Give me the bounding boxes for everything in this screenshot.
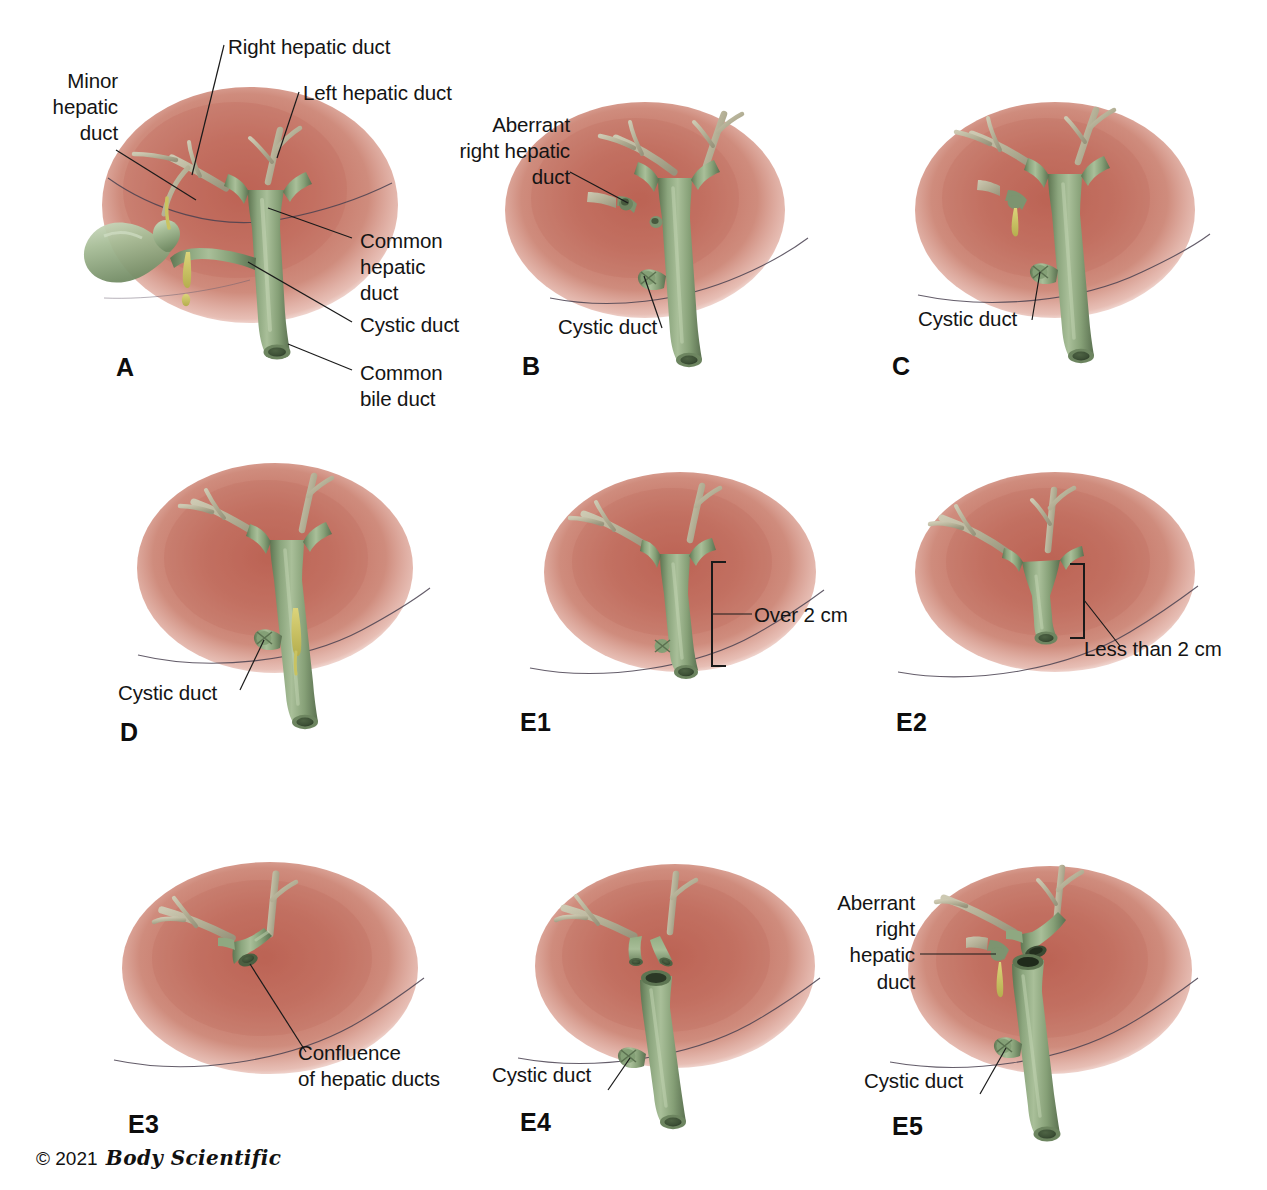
- panel-D: Cystic duct D: [80, 440, 480, 750]
- copyright-notice: © 2021 Body Scientific: [36, 1146, 281, 1170]
- panel-E2: Less than 2 cm E2: [880, 450, 1267, 750]
- panel-E3: Confluence of hepatic ducts E3: [80, 840, 500, 1160]
- leader-common-bile-duct: [288, 344, 352, 370]
- panel-letter-A: A: [116, 353, 134, 382]
- label-cystic-duct: Cystic duct: [918, 306, 1048, 332]
- panel-letter-C: C: [892, 352, 910, 381]
- label-over-2-cm: Over 2 cm: [754, 602, 884, 628]
- cystic-duct-clip: [655, 639, 671, 653]
- duct-clip-secondary: [650, 216, 663, 228]
- panel-C: Cystic duct C: [850, 70, 1267, 410]
- label-cystic-duct: Cystic duct: [558, 314, 688, 340]
- panel-E4: Cystic duct E4: [490, 840, 890, 1150]
- label-minor-hepatic-duct: Minor hepatic duct: [18, 68, 118, 147]
- panel-A-illustration: [0, 0, 470, 420]
- panel-E1-illustration: [490, 450, 890, 750]
- label-cystic-duct: Cystic duct: [492, 1062, 622, 1088]
- label-aberrant-right-hepatic-duct: Aberrant right hepatic duct: [440, 112, 570, 191]
- biliary-classification-figure: Minor hepatic duct Right hepatic duct Le…: [0, 0, 1267, 1190]
- panel-letter-E3: E3: [128, 1110, 159, 1139]
- label-cystic-duct: Cystic duct: [864, 1068, 994, 1094]
- label-aberrant-right-hepatic-duct: Aberrant right hepatic duct: [810, 890, 915, 995]
- label-cystic-duct: Cystic duct: [118, 680, 248, 706]
- panel-E4-illustration: [490, 840, 890, 1150]
- copyright-symbol: ©: [36, 1148, 50, 1169]
- panel-letter-E2: E2: [896, 708, 927, 737]
- panel-letter-E5: E5: [892, 1112, 923, 1141]
- panel-C-illustration: [850, 70, 1267, 410]
- panel-letter-B: B: [522, 352, 540, 381]
- label-confluence-of-hepatic-ducts: Confluence of hepatic ducts: [298, 1040, 498, 1092]
- label-less-than-2-cm: Less than 2 cm: [1084, 636, 1264, 662]
- panel-B: Aberrant right hepatic duct Cystic duct …: [430, 70, 850, 410]
- label-right-hepatic-duct: Right hepatic duct: [228, 34, 428, 60]
- copyright-year: 2021: [55, 1148, 97, 1169]
- brand-name: Body Scientific: [106, 1146, 282, 1170]
- panel-letter-E4: E4: [520, 1108, 551, 1137]
- panel-E2-illustration: [880, 450, 1267, 750]
- panel-E5: Aberrant right hepatic duct Cystic duct …: [850, 840, 1267, 1160]
- panel-letter-D: D: [120, 718, 138, 747]
- panel-E1: Over 2 cm E1: [490, 450, 890, 750]
- panel-letter-E1: E1: [520, 708, 551, 737]
- panel-A: Minor hepatic duct Right hepatic duct Le…: [0, 0, 470, 420]
